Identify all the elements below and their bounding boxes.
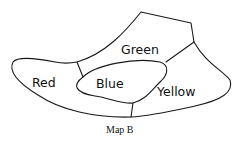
map-caption: Map B: [106, 124, 134, 135]
label-blue: Blue: [96, 76, 124, 91]
map-diagram: Green Red Blue Yellow Map B: [0, 0, 240, 144]
yellow-red-border: [131, 103, 133, 117]
green-yellow-border: [166, 42, 194, 62]
label-red: Red: [32, 75, 56, 90]
label-yellow: Yellow: [156, 84, 195, 99]
outer-boundary: [12, 12, 231, 117]
label-green: Green: [121, 42, 159, 57]
map-drawing: Green Red Blue Yellow Map B: [0, 0, 240, 144]
red-green-border: [77, 62, 83, 77]
